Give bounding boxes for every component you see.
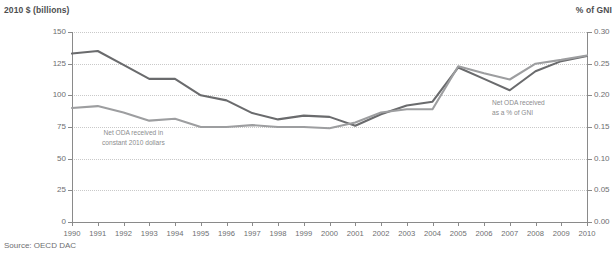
- annotation-gni: Net ODA received as a % of GNI: [492, 98, 545, 117]
- annotation-dollars: Net ODA received in constant 2010 dollar…: [102, 128, 165, 147]
- source-note: Source: OECD DAC: [4, 241, 76, 250]
- series-lines: [0, 0, 616, 260]
- chart-root: 2010 $ (billions) % of GNI 0255075100125…: [0, 0, 616, 260]
